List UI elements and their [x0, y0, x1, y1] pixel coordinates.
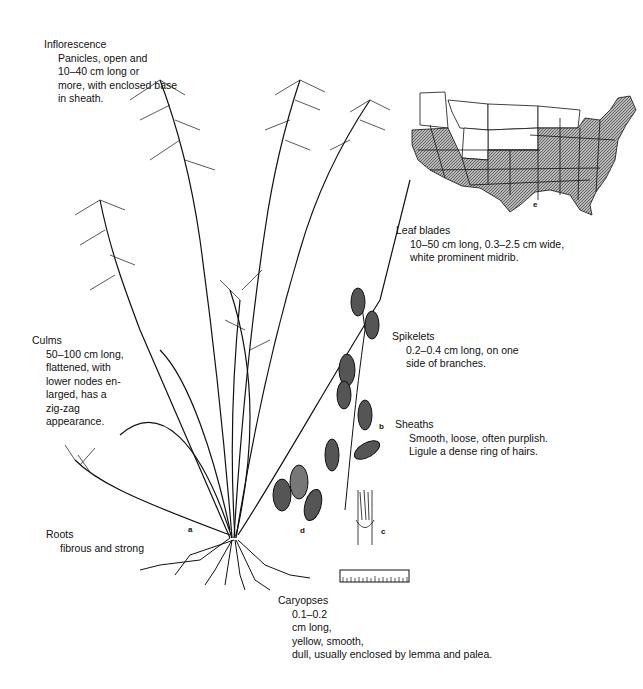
label-line: more, with enclosed base	[44, 79, 177, 93]
label-line: 10–40 cm long or	[44, 65, 177, 79]
label-line: 10–50 cm long, 0.3–2.5 cm wide,	[396, 238, 564, 252]
label-line: appearance.	[32, 415, 124, 429]
caryopses-drawing	[273, 465, 325, 523]
label-line: Ligule a dense ring of hairs.	[395, 445, 548, 459]
label-line: yellow, smooth,	[278, 635, 492, 649]
figure-letter-c: c	[381, 527, 385, 536]
label-line: lower nodes en-	[32, 375, 124, 389]
figure-letter-b: b	[379, 422, 384, 431]
figure-letter-a: a	[188, 525, 192, 534]
label-line: 0.2–0.4 cm long, on one	[392, 344, 519, 358]
label-line: cm long,	[278, 621, 492, 635]
label-line: Smooth, loose, often purplish.	[395, 432, 548, 446]
roots-label: Roots fibrous and strong	[46, 528, 144, 555]
label-line: white prominent midrib.	[396, 251, 564, 265]
label-title: Leaf blades	[396, 224, 564, 238]
inflorescence-label: Inflorescence Panicles, open and 10–40 c…	[44, 38, 177, 106]
culms-label: Culms 50–100 cm long, flattened, with lo…	[32, 334, 124, 429]
ligule-drawing	[356, 490, 374, 545]
label-title: Culms	[32, 334, 124, 348]
label-line: 0.1–0.2	[278, 608, 492, 622]
label-title: Roots	[46, 528, 144, 542]
label-line: larged, has a	[32, 388, 124, 402]
label-line: Panicles, open and	[44, 52, 177, 66]
leaf-blades-label: Leaf blades 10–50 cm long, 0.3–2.5 cm wi…	[396, 224, 564, 265]
figure-letter-e: e	[533, 200, 537, 209]
sheaths-label: Sheaths Smooth, loose, often purplish. L…	[395, 418, 548, 459]
label-line: flattened, with	[32, 361, 124, 375]
roots-drawing	[140, 538, 310, 590]
caryopses-label: Caryopses 0.1–0.2 cm long, yellow, smoot…	[278, 594, 492, 662]
spikelet-branch-drawing	[325, 288, 383, 510]
label-title: Caryopses	[278, 594, 492, 608]
label-title: Sheaths	[395, 418, 548, 432]
scale-ruler	[340, 570, 409, 582]
figure-letter-d: d	[300, 526, 305, 535]
label-line: in sheath.	[44, 92, 177, 106]
spikelets-label: Spikelets 0.2–0.4 cm long, on one side o…	[392, 330, 519, 371]
label-line: 50–100 cm long,	[32, 348, 124, 362]
label-line: side of branches.	[392, 357, 519, 371]
distribution-map	[412, 92, 636, 215]
label-title: Inflorescence	[44, 38, 177, 52]
label-title: Spikelets	[392, 330, 519, 344]
label-line: zig-zag	[32, 402, 124, 416]
label-line: dull, usually enclosed by lemma and pale…	[278, 648, 492, 662]
label-line: fibrous and strong	[46, 542, 144, 556]
